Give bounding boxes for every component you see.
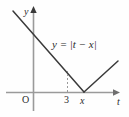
function-formula-label: y = |t − x| <box>52 39 97 50</box>
absolute-value-graph-figure: y = |t − x| y t O 3 x <box>0 0 129 117</box>
x-axis-arrowhead <box>113 89 120 95</box>
origin-label: O <box>22 95 29 105</box>
y-axis-arrowhead <box>30 6 36 13</box>
y-axis-label: y <box>24 7 28 17</box>
curve-left-branch <box>13 11 84 92</box>
x-axis-label: t <box>117 97 120 107</box>
x-tick-label-x: x <box>80 96 84 106</box>
curve-right-branch <box>84 61 118 92</box>
x-tick-label-3: 3 <box>64 95 69 105</box>
